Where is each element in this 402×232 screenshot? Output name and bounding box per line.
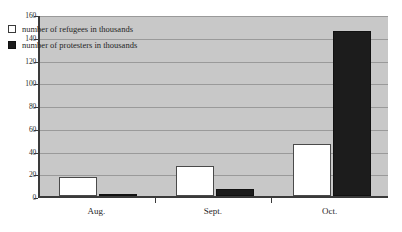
legend-label-protesters: number of protesters in thousands <box>22 41 137 50</box>
y-axis-tick-mark <box>34 198 38 199</box>
legend-item-protesters: number of protesters in thousands <box>8 38 137 52</box>
y-axis-tick-label: 160 <box>8 12 36 20</box>
bar-refugees <box>59 177 97 196</box>
x-axis-separator <box>155 198 156 203</box>
x-axis-category-label: Aug. <box>38 206 155 216</box>
legend: number of refugees in thousands number o… <box>8 22 137 54</box>
gridline <box>40 16 388 17</box>
legend-swatch-protesters-icon <box>8 41 16 49</box>
y-axis-tick-label: 120 <box>8 58 36 66</box>
x-axis-category-label: Sept. <box>155 206 272 216</box>
bar-protesters <box>99 194 137 196</box>
bar-refugees <box>176 166 214 196</box>
legend-label-refugees: number of refugees in thousands <box>22 25 133 34</box>
y-axis-tick-label: 20 <box>8 171 36 179</box>
bar-refugees <box>293 144 331 196</box>
y-axis-tick-label: 100 <box>8 80 36 88</box>
x-axis-category-label: Oct. <box>271 206 388 216</box>
legend-item-refugees: number of refugees in thousands <box>8 22 137 36</box>
legend-swatch-refugees-icon <box>8 25 16 33</box>
y-axis-tick-label: 40 <box>8 149 36 157</box>
y-axis-tick-label: 0 <box>8 194 36 202</box>
x-axis-separator <box>271 198 272 203</box>
bar-protesters <box>216 189 254 196</box>
y-axis-tick-label: 60 <box>8 126 36 134</box>
bar-chart: 020406080100120140160 Aug.Sept.Oct. numb… <box>0 0 402 232</box>
bar-protesters <box>333 31 371 196</box>
y-axis-tick-label: 80 <box>8 103 36 111</box>
